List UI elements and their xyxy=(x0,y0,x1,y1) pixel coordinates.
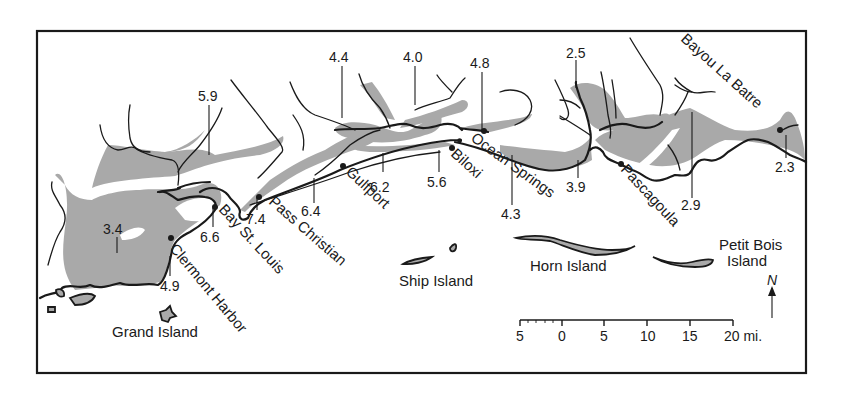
small-islet-3 xyxy=(56,289,64,296)
small-islet-1 xyxy=(70,294,95,305)
grand-island xyxy=(160,306,176,322)
value-4-8: 4.8 xyxy=(470,55,490,71)
petit-bois-island xyxy=(653,257,713,267)
value-3-9: 3.9 xyxy=(566,179,586,195)
value-2-9: 2.9 xyxy=(681,197,701,213)
scale-tick-5: 20 mi. xyxy=(724,328,762,344)
label-horn-island: Horn Island xyxy=(530,257,607,274)
value-4-9: 4.9 xyxy=(160,278,180,294)
north-label: N xyxy=(767,272,778,288)
north-arrow: N xyxy=(767,272,778,318)
label-bayou-la-batre: Bayou La Batre xyxy=(678,30,766,112)
value-2-3: 2.3 xyxy=(775,159,795,175)
value-5-6: 5.6 xyxy=(427,174,447,190)
value-3-4: 3.4 xyxy=(103,221,123,237)
scale-tick-2: 5 xyxy=(600,328,608,344)
scale-tick-3: 10 xyxy=(640,328,656,344)
label-pascagoula: Pascagoula xyxy=(618,160,684,229)
label-petit-bois-2: Island xyxy=(727,252,767,269)
horn-island xyxy=(516,236,635,255)
scale-tick-0: 5 xyxy=(516,328,524,344)
label-grand-island: Grand Island xyxy=(112,323,198,340)
value-2-5: 2.5 xyxy=(566,45,586,61)
small-islet-2 xyxy=(48,307,55,312)
ship-island-east xyxy=(450,244,456,251)
scale-bar: 5 0 5 10 15 20 mi. xyxy=(516,320,762,344)
coastal-map: 5.9 4.4 4.0 4.8 2.5 3.4 6.6 7.4 6.4 6.2 … xyxy=(0,0,843,394)
value-4-0: 4.0 xyxy=(403,49,423,65)
label-petit-bois-1: Petit Bois xyxy=(719,236,782,253)
scale-tick-4: 15 xyxy=(682,328,698,344)
value-5-9: 5.9 xyxy=(198,88,218,104)
value-labels: 5.9 4.4 4.0 4.8 2.5 3.4 6.6 7.4 6.4 6.2 … xyxy=(103,45,795,294)
ship-island-west xyxy=(403,257,432,264)
value-4-3: 4.3 xyxy=(501,206,521,222)
scale-tick-1: 0 xyxy=(558,328,566,344)
value-6-6: 6.6 xyxy=(200,229,220,245)
label-ship-island: Ship Island xyxy=(399,272,473,289)
value-4-4: 4.4 xyxy=(329,49,349,65)
